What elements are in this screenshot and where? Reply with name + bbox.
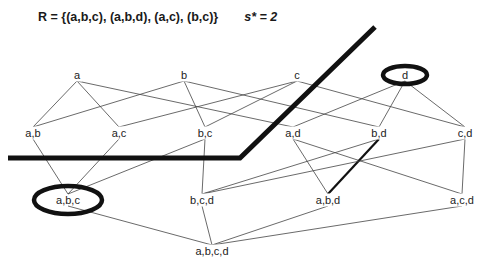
edge-abd-abcd — [212, 206, 328, 245]
node-b: b — [179, 69, 189, 82]
edge-ad-abd — [293, 139, 328, 194]
edge-a-ac — [77, 81, 119, 127]
title: R = {(a,b,c), (a,b,d), (a,c), (b,c)}s* =… — [38, 10, 277, 24]
edge-acd-abcd — [212, 206, 462, 245]
lattice-edges — [33, 81, 465, 245]
edge-bc-abc — [68, 139, 205, 194]
node-bcd: b,c,d — [188, 194, 216, 207]
node-abcd: a,b,c,d — [193, 245, 230, 258]
edge-d-cd — [405, 81, 465, 127]
edge-b-bc — [184, 81, 205, 127]
node-bc: b,c — [196, 127, 215, 140]
edge-ad-acd — [293, 139, 462, 194]
frequent-border-line — [8, 27, 375, 158]
node-abd: a,b,d — [314, 194, 342, 207]
node-cd: c,d — [456, 127, 475, 140]
node-ac: a,c — [110, 127, 129, 140]
node-ab: a,b — [23, 127, 42, 140]
node-d: d — [400, 69, 410, 82]
node-acd: a,c,d — [448, 194, 476, 207]
edge-d-bd — [379, 81, 405, 127]
edge-bcd-abcd — [202, 206, 212, 245]
edge-cd-bcd — [202, 139, 465, 194]
edge-c-cd — [297, 81, 465, 127]
node-bd: b,d — [369, 127, 388, 140]
edge-bc-bcd — [202, 139, 205, 194]
lattice-diagram — [0, 0, 487, 266]
relation-definition: R = {(a,b,c), (a,b,d), (a,c), (b,c)} — [38, 10, 218, 24]
border-polyline — [8, 27, 375, 158]
node-ad: a,d — [283, 127, 302, 140]
node-a: a — [72, 69, 82, 82]
support-threshold: s* = 2 — [244, 10, 277, 24]
edge-c-ac — [119, 81, 297, 127]
highlight-rings — [34, 66, 427, 214]
edge-cd-acd — [462, 139, 465, 194]
node-c: c — [292, 69, 302, 82]
node-abc: a,b,c — [54, 194, 82, 207]
